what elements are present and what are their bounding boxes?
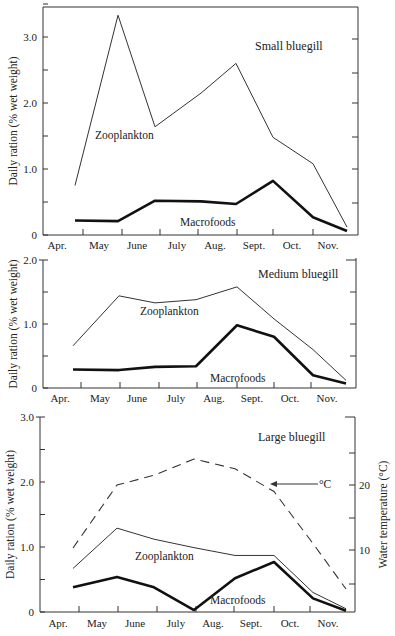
chart-panel-2: 01.02.0Apr.MayJuneJulyAug.Sept.Oct.Nov.D…: [7, 254, 356, 404]
y-axis-label: Daily ration (% wet weight): [7, 56, 20, 185]
macrofoods-label: Macrofoods: [210, 594, 266, 606]
y-tick-label: 3.0: [20, 411, 34, 423]
month-label: Sept.: [240, 617, 263, 629]
y2-tick-label: 20: [359, 479, 371, 491]
chart-title: Large bluegill: [258, 430, 326, 444]
month-label: Apr.: [47, 239, 67, 251]
chart-title: Small bluegill: [255, 39, 323, 53]
month-label: Nov.: [317, 392, 338, 404]
month-label: July: [167, 617, 186, 629]
y-tick-label: 1.0: [23, 163, 37, 175]
month-label: Apr.: [50, 392, 70, 404]
y2-tick-label: 10: [359, 544, 371, 556]
chart-title: Medium bluegill: [258, 267, 339, 281]
y-axis-label: Daily ration (% wet weight): [7, 259, 20, 388]
month-label: July: [167, 392, 186, 404]
month-label: Apr.: [48, 617, 68, 629]
y-tick-label: 0: [32, 382, 38, 394]
y-tick-label: 1.0: [23, 318, 37, 330]
y-axis-label: Daily ration (% wet weight): [4, 450, 17, 579]
y-tick-label: 2.0: [20, 476, 34, 488]
temperature-line: [73, 459, 346, 589]
month-label: Oct.: [281, 392, 300, 404]
macrofoods-label: Macrofoods: [180, 216, 236, 228]
macrofoods-label: Macrofoods: [210, 372, 266, 384]
month-label: Nov.: [318, 239, 339, 251]
chart-panel-1: 01.02.03.0Apr.MayJuneJulyAug.Sept.Oct.No…: [7, 4, 358, 251]
chart-panel-3: 01.02.03.0Apr.MayJuneJulyAug.Sept.Oct.No…: [4, 411, 390, 629]
chart-canvas: 01.02.03.0Apr.MayJuneJulyAug.Sept.Oct.No…: [0, 0, 395, 636]
month-label: Nov.: [318, 617, 339, 629]
y-tick-label: 3.0: [23, 31, 37, 43]
zooplankton-label: Zooplankton: [95, 129, 154, 142]
month-label: Sept.: [243, 239, 266, 251]
bluegill-daily-ration-figure: 01.02.03.0Apr.MayJuneJulyAug.Sept.Oct.No…: [0, 0, 395, 636]
month-label: Oct.: [281, 617, 300, 629]
month-label: Sept.: [241, 392, 264, 404]
month-label: Aug.: [202, 617, 224, 629]
month-label: Aug.: [204, 239, 226, 251]
y-tick-label: 1.0: [20, 541, 34, 553]
month-label: June: [125, 617, 145, 629]
month-label: June: [127, 239, 147, 251]
month-label: May: [87, 617, 108, 629]
y2-axis-label: Water temperature (°C): [377, 460, 390, 568]
zooplankton-label: Zooplankton: [140, 305, 199, 318]
zooplankton-label: Zooplankton: [135, 550, 194, 563]
month-label: June: [127, 392, 147, 404]
temperature-annotation: °C: [319, 478, 332, 490]
y-tick-label: 2.0: [23, 254, 37, 266]
month-label: Oct.: [283, 239, 302, 251]
month-label: May: [90, 392, 111, 404]
y-tick-label: 2.0: [23, 97, 37, 109]
y-tick-label: 0: [29, 606, 35, 618]
arrowhead-icon: [270, 481, 277, 487]
y-tick-label: 0: [32, 229, 38, 241]
month-label: Aug.: [203, 392, 225, 404]
month-label: July: [168, 239, 187, 251]
month-label: May: [89, 239, 110, 251]
